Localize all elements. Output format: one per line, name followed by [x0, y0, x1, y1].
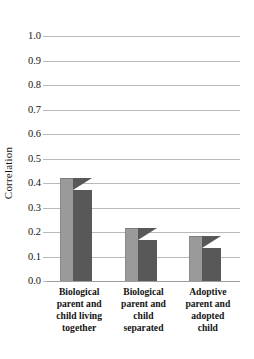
y-axis-tick-label: 0.1	[17, 252, 41, 262]
y-axis-tick-label: 0.4	[17, 178, 41, 188]
x-axis-label-line: Adoptive	[170, 286, 246, 298]
bar	[189, 236, 221, 281]
x-axis-label-line: adopted	[170, 310, 246, 322]
y-axis-tick-label: 0.8	[17, 80, 41, 90]
gridline	[47, 36, 240, 37]
bar-top-face	[73, 178, 92, 190]
bar-side-face	[73, 190, 92, 281]
bar-side-face	[138, 240, 157, 281]
plot-area	[47, 36, 240, 281]
bar-front-face	[189, 236, 202, 281]
y-axis-tick-label: 1.0	[17, 31, 41, 41]
bar-side-face	[202, 248, 221, 281]
x-axis-label-line: child	[170, 322, 246, 334]
x-axis-label-line: parent and	[170, 298, 246, 310]
gridline	[47, 134, 240, 135]
y-axis-title-label: Correlation	[2, 147, 14, 199]
y-axis-tick-label: 0.2	[17, 227, 41, 237]
axis-baseline	[47, 281, 240, 282]
y-axis-tick-label: 0.3	[17, 203, 41, 213]
bar-top-face	[202, 236, 221, 248]
bar-front-face	[60, 178, 73, 281]
bar	[125, 228, 157, 281]
y-axis-tick-label: 0.0	[17, 276, 41, 286]
x-axis-category-label: Adoptiveparent andadoptedchild	[170, 286, 246, 334]
y-axis-tick-label: 0.5	[17, 154, 41, 164]
y-axis-tick-label: 0.7	[17, 105, 41, 115]
gridline	[47, 159, 240, 160]
bar-chart: Correlation 1.00.90.80.70.60.50.40.30.20…	[0, 0, 254, 359]
y-axis-tick-label: 0.9	[17, 56, 41, 66]
gridline	[47, 110, 240, 111]
bar-front-face	[125, 228, 138, 281]
y-axis-title: Correlation	[0, 118, 16, 228]
bar-top-face	[138, 228, 157, 240]
gridline	[47, 61, 240, 62]
y-axis-tick-label: 0.6	[17, 129, 41, 139]
bar	[60, 178, 92, 281]
gridline	[47, 85, 240, 86]
